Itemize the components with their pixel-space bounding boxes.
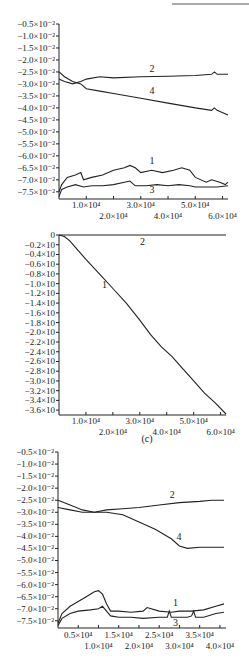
chart-panel-c: 0−0.2×10−0.4×10−0.6×10−0.8×10−1.0×10−1.2… <box>25 230 235 437</box>
y-tick-label: −1.2×10 <box>25 288 56 298</box>
y-tick-label: −2.5×10⁻² <box>16 495 54 505</box>
series-label-2: 2 <box>140 236 145 247</box>
x-tick-label: 1.0×10⁴ <box>72 200 100 210</box>
y-tick-label: −5.0×10⁻² <box>17 127 55 137</box>
y-tick-label: −1.0×10⁻² <box>17 31 55 41</box>
y-tick-label: −2.4×10 <box>25 347 56 357</box>
y-tick-label: −0.6×10 <box>25 259 56 269</box>
series-line-4 <box>59 72 228 115</box>
series-line-2 <box>59 72 228 84</box>
y-tick-label: −4.5×10⁻² <box>16 543 54 553</box>
y-tick-label: −3.0×10⁻² <box>16 507 54 517</box>
y-tick-label: −2.6×10 <box>25 356 56 366</box>
y-tick-label: −2.2×10 <box>25 337 56 347</box>
series-label-4: 4 <box>176 531 181 542</box>
y-tick-label: −3.5×10⁻² <box>17 91 55 101</box>
x-tick-label: 6.0×10⁴ <box>206 427 234 437</box>
series-label-1: 1 <box>102 279 107 290</box>
y-tick-label: −6.0×10⁻² <box>16 580 54 590</box>
x-tick-label: 4.0×10⁴ <box>206 641 234 651</box>
x-tick-label: 2.0×10⁴ <box>99 427 127 437</box>
y-tick-label: 0 <box>51 230 56 240</box>
panel-caption-c: (c) <box>141 433 152 445</box>
y-tick-label: −4.0×10⁻² <box>17 103 55 113</box>
y-tick-label: −6.5×10⁻² <box>16 592 54 602</box>
y-tick-label: −7.5×10⁻² <box>16 616 54 626</box>
y-tick-label: −2.0×10 <box>25 327 56 337</box>
chart-panel-d: −0.5×10⁻²−1.0×10⁻²−1.5×10⁻²−2.0×10⁻²−2.5… <box>16 447 234 651</box>
y-tick-label: −3.0×10 <box>25 376 56 386</box>
y-tick-label: −0.2×10 <box>25 240 56 250</box>
x-tick-label: 2.0×10⁴ <box>99 211 127 221</box>
series-line-3 <box>59 181 228 197</box>
series-label-1: 1 <box>173 597 178 608</box>
series-label-4: 4 <box>149 85 154 96</box>
figure-canvas: −0.5×10⁻²−1.0×10⁻²−1.5×10⁻²−2.0×10⁻²−2.5… <box>0 0 249 668</box>
y-tick-label: −5.5×10⁻² <box>17 139 55 149</box>
x-tick-label: 4.0×10⁴ <box>153 427 181 437</box>
x-tick-label: 1.0×10⁴ <box>84 641 112 651</box>
series-line-1 <box>59 235 226 414</box>
y-tick-label: −0.5×10⁻² <box>17 19 55 29</box>
series-label-1: 1 <box>149 155 154 166</box>
y-tick-label: −1.4×10 <box>25 298 56 308</box>
y-tick-label: −1.6×10 <box>25 308 56 318</box>
y-tick-label: −2.0×10⁻² <box>17 55 55 65</box>
y-tick-label: −3.2×10 <box>25 386 56 396</box>
y-tick-label: −1.5×10⁻² <box>16 471 54 481</box>
x-tick-label: 6.0×10⁴ <box>208 211 236 221</box>
y-tick-label: −2.8×10 <box>25 366 56 376</box>
y-tick-label: −3.0×10⁻² <box>17 79 55 89</box>
y-tick-label: −2.5×10⁻² <box>17 67 55 77</box>
y-tick-label: −3.4×10 <box>25 395 56 405</box>
series-label-2: 2 <box>149 63 154 74</box>
series-line-3 <box>58 606 224 625</box>
y-tick-label: −4.5×10⁻² <box>17 115 55 125</box>
y-tick-label: −7.0×10⁻² <box>16 604 54 614</box>
y-tick-label: −1.5×10⁻² <box>17 43 55 53</box>
chart-panel-a: −0.5×10⁻²−1.0×10⁻²−1.5×10⁻²−2.0×10⁻²−2.5… <box>17 19 237 221</box>
x-tick-label: 3.5×10⁴ <box>185 630 213 640</box>
x-tick-label: 2.0×10⁴ <box>125 641 153 651</box>
series-label-2: 2 <box>170 489 175 500</box>
x-tick-label: 4.0×10⁴ <box>154 211 182 221</box>
x-tick-label: 5.0×10⁴ <box>179 416 207 426</box>
series-line-1 <box>59 165 228 191</box>
x-tick-label: 3.0×10⁴ <box>127 200 155 210</box>
series-label-3: 3 <box>149 184 154 195</box>
y-tick-label: −0.8×10 <box>25 269 56 279</box>
y-tick-label: −0.4×10 <box>25 249 56 259</box>
y-tick-label: −1.8×10 <box>25 318 56 328</box>
y-tick-label: −3.5×10⁻² <box>16 519 54 529</box>
x-tick-label: 0.5×10⁴ <box>64 630 92 640</box>
series-label-3: 3 <box>173 617 178 628</box>
y-tick-label: −5.0×10⁻² <box>16 555 54 565</box>
x-tick-label: 1.0×10⁴ <box>72 416 100 426</box>
y-tick-label: −1.0×10 <box>25 279 56 289</box>
y-tick-label: −5.5×10⁻² <box>16 568 54 578</box>
y-tick-label: −6.5×10⁻² <box>17 163 55 173</box>
x-tick-label: 3.0×10⁴ <box>126 416 154 426</box>
x-tick-label: 5.0×10⁴ <box>181 200 209 210</box>
y-tick-label: −1.0×10⁻² <box>16 459 54 469</box>
y-tick-label: −7.5×10⁻² <box>17 187 55 197</box>
y-tick-label: −0.5×10⁻² <box>16 447 54 457</box>
x-tick-label: 3.0×10⁴ <box>165 641 193 651</box>
y-tick-label: −4.0×10⁻² <box>16 531 54 541</box>
x-tick-label: 1.5×10⁴ <box>104 630 132 640</box>
x-tick-label: 2.5×10⁴ <box>145 630 173 640</box>
y-tick-label: −3.6×10 <box>25 405 56 415</box>
y-tick-label: −6.0×10⁻² <box>17 151 55 161</box>
y-tick-label: −7.0×10⁻² <box>17 175 55 185</box>
y-tick-label: −2.0×10⁻² <box>16 483 54 493</box>
